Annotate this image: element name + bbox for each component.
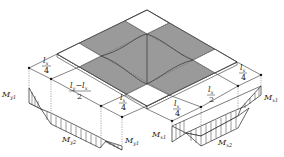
label-My2: My2 (61, 135, 76, 146)
svg-text:lx: lx (240, 63, 246, 73)
two-way-slab-diagram: lx 4 ly−lx 2 lx 4 lx 4 lx 2 lx 4 My1 My2… (0, 0, 284, 157)
label-ly-minus-lx-over-2: ly−lx 2 (69, 81, 91, 101)
moment-diagram-x (172, 86, 261, 146)
label-My1-right: My1 (124, 136, 139, 147)
label-Mx1-right: Mx1 (263, 93, 278, 103)
svg-text:ly−lx: ly−lx (70, 81, 88, 92)
label-My1-left: My1 (1, 90, 16, 101)
moment-Mx1-right (241, 86, 261, 108)
svg-text:2: 2 (209, 95, 214, 104)
svg-text:4: 4 (175, 109, 180, 118)
label-Mx1-left: Mx1 (151, 130, 166, 140)
label-lx-over-4-right-2: lx 4 (239, 63, 247, 82)
svg-text:4: 4 (241, 73, 246, 82)
label-lx-over-4-right: lx 4 (173, 99, 181, 118)
svg-text:2: 2 (77, 92, 82, 101)
svg-text:lx: lx (208, 85, 214, 95)
svg-text:lx: lx (174, 99, 180, 109)
label-lx-over-2: lx 2 (207, 85, 215, 104)
svg-text:4: 4 (44, 66, 49, 75)
label-Mx2: Mx2 (217, 138, 232, 148)
svg-text:lx: lx (43, 56, 49, 66)
label-lx-over-4-left: lx 4 (42, 56, 51, 75)
svg-text:4: 4 (121, 103, 126, 112)
